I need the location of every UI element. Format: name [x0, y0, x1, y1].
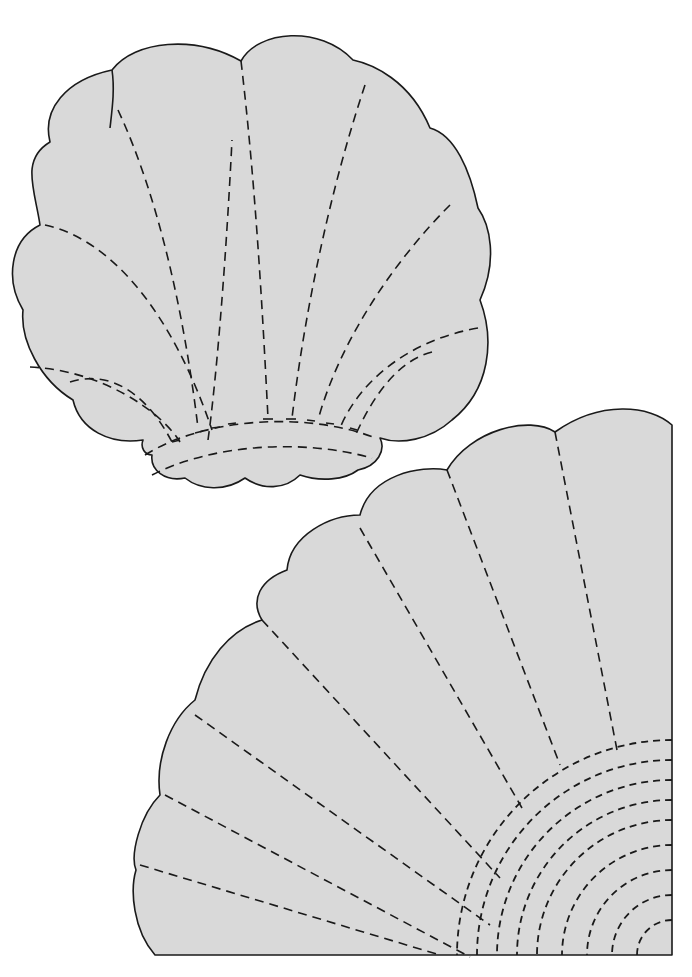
pattern-canvas	[0, 0, 692, 977]
fan-outline	[133, 409, 672, 955]
fan-template	[133, 409, 672, 957]
shell-outline	[13, 36, 491, 488]
shell-template	[13, 36, 491, 488]
